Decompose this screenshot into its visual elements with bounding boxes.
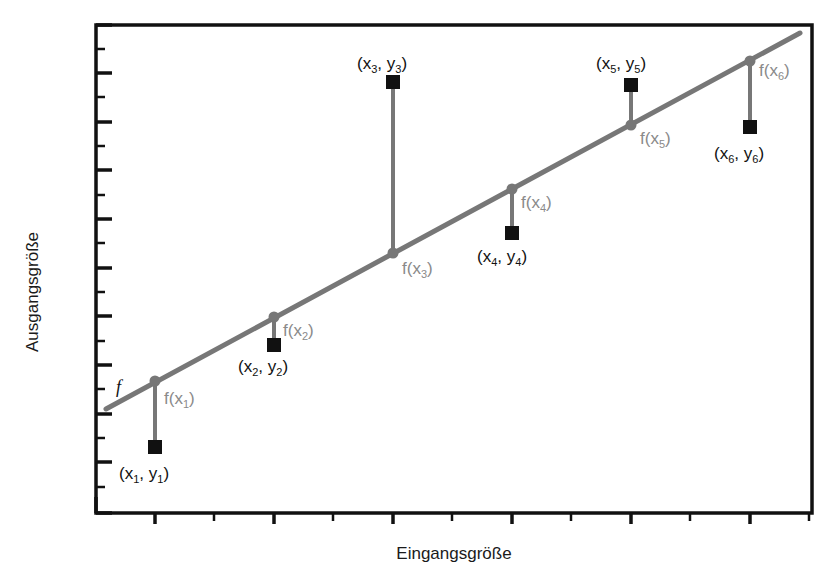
fitted-point-1 xyxy=(150,376,161,387)
fitted-point-6 xyxy=(745,56,756,67)
x-axis-title: Eingangsgröße xyxy=(396,544,511,563)
fitted-value-label-3: f(x3) xyxy=(402,259,433,280)
fitted-value-label-6: f(x6) xyxy=(759,61,790,82)
regression-residual-figure: f (x1, y1) (x2, y2) (x3, y3) (x4, y4) (x… xyxy=(0,0,840,588)
data-point-5 xyxy=(624,78,638,92)
data-point-1 xyxy=(148,440,162,454)
y-axis-title: Ausgangsgröße xyxy=(23,232,42,352)
data-point-2 xyxy=(267,338,281,352)
fitted-point-4 xyxy=(507,184,518,195)
fitted-point-5 xyxy=(626,120,637,131)
fitted-point-2 xyxy=(269,312,280,323)
fitted-value-label-1: f(x1) xyxy=(164,389,195,410)
data-point-3 xyxy=(386,75,400,89)
plot-frame xyxy=(96,25,812,513)
plot-area-border xyxy=(96,25,812,513)
fitted-point-3 xyxy=(388,248,399,259)
data-point-4 xyxy=(505,226,519,240)
fitted-value-label-4: f(x4) xyxy=(521,193,552,214)
fitted-value-label-5: f(x5) xyxy=(640,129,671,150)
fitted-value-label-2: f(x2) xyxy=(283,321,314,342)
data-point-6 xyxy=(743,120,757,134)
